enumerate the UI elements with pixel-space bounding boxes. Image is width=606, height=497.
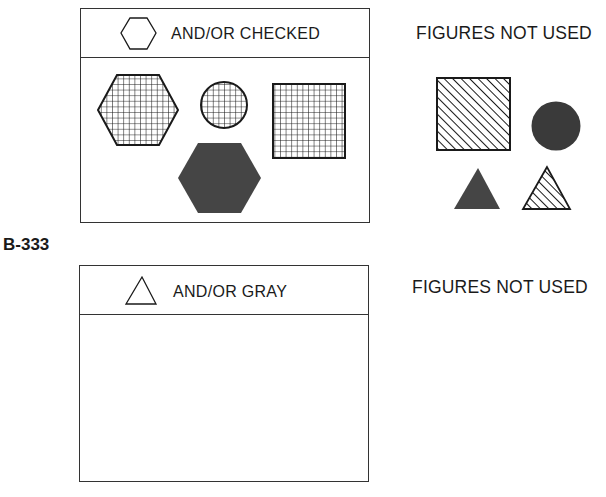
- figures-not-used-label-2: FIGURES NOT USED: [412, 279, 588, 297]
- panel-2-header: AND/OR GRAY: [80, 266, 368, 315]
- panel-2-header-text: AND/OR GRAY: [173, 284, 287, 300]
- item-label: B-333: [3, 236, 49, 253]
- figures-not-used-label-1: FIGURES NOT USED: [416, 25, 592, 43]
- checked-square-figure: [273, 84, 345, 158]
- checked-hexagon-figure: [98, 75, 178, 145]
- answer-panel-2: AND/OR GRAY: [79, 265, 369, 482]
- gray-circle-figure: [532, 102, 581, 151]
- striped-square-figure: [437, 78, 510, 150]
- gray-hexagon-figure: [178, 143, 261, 213]
- checked-circle-figure: [201, 82, 247, 128]
- striped-triangle-figure: [523, 167, 570, 209]
- gray-triangle-figure: [454, 168, 500, 209]
